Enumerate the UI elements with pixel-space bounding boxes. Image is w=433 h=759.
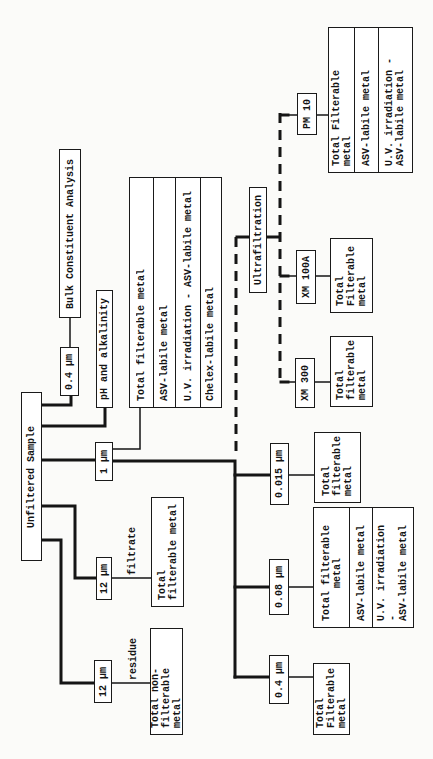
edge-unfiltered-to-12-residue — [42, 540, 94, 683]
node-result-0-4um-bottom: Total Filterable metal — [313, 663, 350, 735]
edge-label-residue: residue — [127, 636, 139, 682]
edge-unfiltered-to-12-filtrate — [42, 506, 96, 578]
node-bulk-constituent-analysis: Bulk Constituent Analysis — [59, 149, 81, 318]
table-0-08um-row-text: ASV-labile metal — [350, 508, 372, 627]
edge-1um-to-table — [113, 408, 140, 449]
table-pm10-cell: U.V. irradiation - ASV-labile metal — [378, 28, 411, 172]
table-pm10-cell: ASV-labile metal — [354, 28, 378, 172]
edge-unfiltered-to-ph — [42, 408, 105, 426]
node-result-xm-100a: Total Filterable metal — [330, 238, 373, 313]
node-filter-12um-residue: 12 µm — [94, 660, 112, 703]
table-1um-cell: U.V. irradiation - ASV-labile metal — [175, 178, 200, 407]
node-xm-300: XM 300 — [295, 358, 315, 408]
node-filter-0-4um-bottom: 0.4 µm — [269, 655, 289, 704]
node-filter-0-08um: 0.08 µm — [269, 559, 289, 615]
table-pm10-results: Total Filterable metal ASV-labile metal … — [328, 27, 413, 173]
node-result-residue: Total non- filterable metal — [150, 628, 183, 735]
table-0-08um-cell: U.V. irradiation - ASV-labile metal — [372, 508, 412, 627]
table-0-08um-row-text: U.V. irradiation - ASV-labile metal — [373, 508, 412, 627]
table-pm10-row-text: Total Filterable metal — [329, 28, 354, 172]
table-pm10-row-text: U.V. irradiation - ASV-labile metal — [379, 28, 411, 172]
table-1um-row-text: ASV-labile metal — [154, 178, 175, 407]
node-filter-12um-filtrate: 12 µm — [96, 557, 112, 600]
node-result-0-015um: Total filterable metal — [314, 432, 361, 503]
table-1um-results: Total filterable metal ASV-labile metal … — [129, 177, 222, 408]
edge-unfiltered-to-04-top — [42, 396, 71, 405]
table-1um-row-text: Chelex-labile metal — [201, 178, 220, 407]
table-1um-cell: ASV-labile metal — [153, 178, 175, 407]
node-filter-1um: 1 µm — [95, 442, 113, 481]
table-0-08um-cell: ASV-labile metal — [349, 508, 372, 627]
table-pm10-row-text: ASV-labile metal — [355, 28, 378, 172]
node-unfiltered-sample: Unfiltered Sample — [21, 392, 42, 561]
table-1um-cell: Chelex-labile metal — [200, 178, 220, 407]
node-filter-0-015um: 0.015 µm — [270, 443, 289, 505]
table-1um-cell: Total filterable metal — [130, 178, 153, 407]
node-result-xm-300: Total filterable metal — [330, 336, 373, 407]
table-0-08um-row-text: Total filterable metal — [314, 508, 349, 627]
table-1um-row-text: Total filterable metal — [130, 178, 153, 407]
table-0-08um-results: Total filterable metal ASV-labile metal … — [313, 507, 414, 628]
node-pm-10: PM 10 — [297, 93, 317, 135]
edge-label-filtrate: filtrate — [126, 527, 138, 575]
table-1um-row-text: U.V. irradiation - ASV-labile metal — [176, 178, 200, 407]
table-pm10-cell: Total Filterable metal — [329, 28, 354, 172]
table-0-08um-cell: Total filterable metal — [314, 508, 349, 627]
node-filter-0-4um-top: 0.4 µm — [60, 347, 79, 396]
node-ph-alkalinity: pH and alkalinity — [96, 290, 113, 408]
node-ultrafiltration: Ultrafiltration — [249, 187, 267, 293]
node-result-filtrate: Total filterable metal — [151, 497, 184, 607]
node-xm-100a: XM 100A — [296, 250, 316, 304]
